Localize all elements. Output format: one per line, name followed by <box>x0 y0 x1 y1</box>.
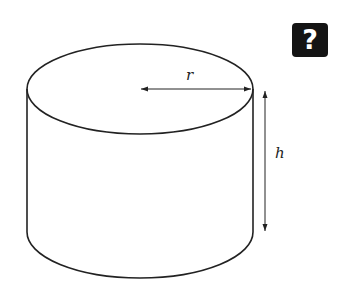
height-label: h <box>275 144 285 162</box>
help-button[interactable]: ? <box>292 23 328 57</box>
radius-label: r <box>186 66 193 84</box>
question-mark-icon: ? <box>302 24 318 55</box>
cylinder-bottom-arc <box>27 232 253 278</box>
